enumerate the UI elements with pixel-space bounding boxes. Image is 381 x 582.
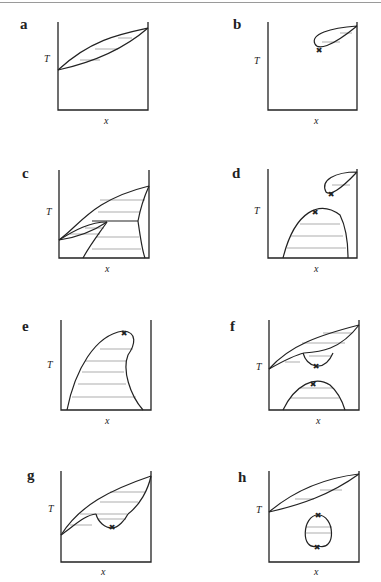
critical-point-icon: ✖ <box>310 380 317 389</box>
critical-point-icon: ✖ <box>312 208 319 217</box>
phase-boundary-curve <box>269 474 359 512</box>
phase-boundary-curve <box>314 26 357 47</box>
panel-label: d <box>232 165 241 181</box>
critical-point-icon: ✖ <box>313 362 320 371</box>
critical-point-icon: ✖ <box>328 190 335 199</box>
phase-boundary-curve <box>269 474 359 512</box>
panel-e: ✖eTx <box>22 318 151 426</box>
y-axis-label: T <box>44 53 51 64</box>
x-axis-label: x <box>315 415 321 426</box>
phase-boundary-curve <box>83 222 107 258</box>
x-axis-label: x <box>104 263 110 274</box>
panel-c: cTx <box>22 165 149 274</box>
panel-d: ✖✖dTx <box>232 165 357 274</box>
panel-label: f <box>230 318 236 334</box>
y-axis-label: T <box>47 359 54 370</box>
x-axis-label: x <box>100 566 106 577</box>
x-axis-label: x <box>103 115 109 126</box>
axes-frame <box>59 170 149 258</box>
y-axis-label: T <box>254 55 261 66</box>
phase-boundary-curve <box>61 514 96 535</box>
x-axis-label: x <box>104 415 110 426</box>
axes-frame <box>61 320 151 410</box>
axes-frame <box>61 471 151 562</box>
y-axis-label: T <box>46 206 53 217</box>
phase-boundary-curve <box>269 353 304 369</box>
panel-label: g <box>27 467 35 483</box>
panel-a: aTx <box>20 16 148 126</box>
panel-h: ✖✖hTx <box>238 469 359 577</box>
critical-point-icon: ✖ <box>121 329 128 338</box>
critical-point-icon: ✖ <box>315 511 322 520</box>
critical-point-icon: ✖ <box>314 543 321 552</box>
panel-label: b <box>233 16 241 32</box>
critical-point-icon: ✖ <box>316 46 323 55</box>
phase-boundary-curve <box>67 331 143 410</box>
x-axis-label: x <box>313 263 319 274</box>
y-axis-label: T <box>256 504 263 515</box>
panel-label: h <box>238 469 247 485</box>
phase-boundary-curve <box>138 186 149 221</box>
phase-boundary-curve <box>128 476 151 514</box>
phase-diagram-figure: aTx✖bTxcTx✖✖dTx✖eTx✖✖fTx✖gTx✖✖hTx <box>0 0 381 582</box>
y-axis-label: T <box>254 205 261 216</box>
panel-f: ✖✖fTx <box>230 318 359 426</box>
y-axis-label: T <box>48 503 55 514</box>
x-axis-label: x <box>313 115 319 126</box>
panel-b: ✖bTx <box>233 16 357 126</box>
panel-label: a <box>20 16 28 32</box>
y-axis-label: T <box>256 361 263 372</box>
panel-g: ✖gTx <box>27 467 151 577</box>
axes-frame <box>268 22 357 110</box>
critical-point-icon: ✖ <box>109 523 116 532</box>
phase-boundary-curve <box>138 221 145 258</box>
panel-label: e <box>22 318 29 334</box>
x-axis-label: x <box>313 566 319 577</box>
panel-label: c <box>22 165 29 181</box>
axes-frame <box>58 22 148 110</box>
